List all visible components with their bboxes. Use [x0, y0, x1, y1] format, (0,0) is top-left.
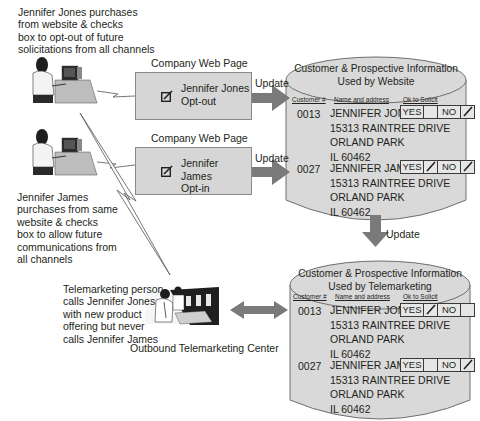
note-line: Jennifer Jones purchases	[18, 6, 155, 18]
customer-id: 0027	[298, 360, 321, 372]
note-line: all channels	[17, 253, 118, 265]
yes-label: YES	[401, 106, 424, 118]
note-line: Jennifer James	[17, 191, 118, 203]
checked-box-icon	[161, 165, 173, 177]
solicit-checkboxes: YES NO	[400, 160, 475, 174]
person-at-computer-illustration-1	[33, 57, 97, 103]
check-mark-icon	[425, 304, 436, 316]
customer-id: 0013	[297, 108, 320, 120]
no-checkbox[interactable]	[461, 161, 474, 173]
web-page-title-2: Company Web Page	[151, 132, 248, 144]
web-page-title-1: Company Web Page	[151, 57, 248, 69]
note-line: Telemarketing person	[63, 283, 163, 295]
note-telemarketer: Telemarketing person calls Jennifer Jone…	[63, 283, 163, 345]
address-line: ORLAND PARK	[330, 332, 450, 347]
address-line: 15313 RAINTREE DRIVE	[330, 373, 450, 388]
check-mark-icon	[462, 161, 473, 173]
db-title-line: Used by Website	[286, 76, 466, 89]
web-page-box-opt-out: Jennifer Jones Opt-out	[135, 72, 252, 120]
note-jennifer-james: Jennifer James purchases from same websi…	[17, 191, 118, 265]
yes-label: YES	[401, 304, 424, 316]
customer-name: Jennifer James	[181, 157, 251, 182]
column-header-ok-to-solicit: Ok to Solicit	[403, 293, 438, 300]
lightning-connector-1	[97, 91, 135, 97]
website-db-title: Customer & Prospective Information Used …	[286, 63, 466, 88]
column-header-name-address: Name and address	[335, 293, 390, 300]
solicit-checkboxes: YES NO	[400, 358, 475, 372]
telemarketing-db-title: Customer & Prospective Information Used …	[290, 268, 470, 293]
check-mark-icon	[462, 359, 473, 371]
opt-choice: Opt-out	[181, 95, 249, 108]
address-line: ORLAND PARK	[330, 190, 450, 205]
no-label: NO	[438, 161, 461, 173]
solicit-checkboxes: YES NO	[400, 105, 475, 119]
note-line: from website & checks	[18, 18, 155, 30]
no-label: NO	[438, 304, 461, 316]
no-checkbox[interactable]	[461, 304, 474, 316]
customer-name: Jennifer Jones	[181, 82, 249, 95]
yes-label: YES	[401, 161, 424, 173]
yes-checkbox[interactable]	[424, 161, 438, 173]
column-header-ok-to-solicit: Ok to Solicit	[403, 96, 438, 103]
no-checkbox[interactable]	[461, 106, 474, 118]
opt-choice: Opt-in	[181, 182, 251, 195]
customer-id: 0013	[298, 305, 321, 317]
db-title-line: Customer & Prospective Information	[286, 63, 466, 76]
address-line: IL 60462	[330, 205, 450, 220]
telemarketing-center-caption: Outbound Telemarketing Center	[130, 342, 279, 354]
address-line: 15313 RAINTREE DRIVE	[330, 121, 450, 136]
solicit-checkboxes: YES NO	[400, 303, 475, 317]
update-label-db-sync: Update	[386, 228, 420, 240]
note-line: communications from	[17, 241, 118, 253]
address-line: 15313 RAINTREE DRIVE	[330, 176, 450, 191]
note-line: solicitations from all channels	[18, 43, 155, 55]
check-mark-icon	[462, 106, 473, 118]
column-header-customer-id: Customer #	[293, 293, 327, 300]
customer-id: 0027	[297, 163, 320, 175]
note-line: website & checks	[17, 216, 118, 228]
address-line: ORLAND PARK	[330, 135, 450, 150]
note-line: box to allow future	[17, 228, 118, 240]
note-line: with new product	[63, 308, 163, 320]
web-page-box-opt-in: Jennifer James Opt-in	[135, 147, 252, 195]
check-mark-icon	[425, 161, 436, 173]
column-header-name-address: Name and address	[334, 96, 389, 103]
note-jennifer-jones: Jennifer Jones purchases from website & …	[18, 6, 155, 56]
no-checkbox[interactable]	[461, 359, 474, 371]
web-page-label: Jennifer Jones Opt-out	[181, 82, 249, 107]
note-line: purchases from same	[17, 203, 118, 215]
lightning-connector-2	[97, 162, 135, 168]
yes-checkbox[interactable]	[424, 359, 438, 371]
person-at-computer-illustration-2	[33, 129, 97, 175]
bidirectional-arrow	[230, 301, 288, 319]
update-label-web2: Update	[255, 152, 289, 164]
note-line: offering but never	[63, 320, 163, 332]
address-line: IL 60462	[330, 402, 450, 417]
yes-checkbox[interactable]	[424, 106, 438, 118]
db-title-line: Customer & Prospective Information	[290, 268, 470, 281]
checked-box-icon	[161, 90, 173, 102]
yes-label: YES	[401, 359, 424, 371]
column-header-customer-id: Customer #	[292, 96, 326, 103]
note-line: calls Jennifer Jones	[63, 295, 163, 307]
note-line: box to opt-out of future	[18, 31, 155, 43]
no-label: NO	[438, 359, 461, 371]
address-line: ORLAND PARK	[330, 387, 450, 402]
web-page-label: Jennifer James Opt-in	[181, 157, 251, 195]
address-line: 15313 RAINTREE DRIVE	[330, 318, 450, 333]
db-title-line: Used by Telemarketing	[290, 281, 470, 294]
yes-checkbox[interactable]	[424, 304, 438, 316]
no-label: NO	[438, 106, 461, 118]
update-label-web1: Update	[255, 77, 289, 89]
